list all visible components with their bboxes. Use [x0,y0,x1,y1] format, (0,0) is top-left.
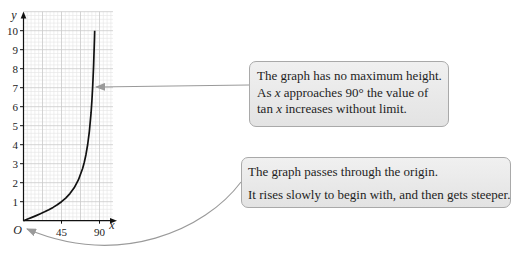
callout-line: tan x increases without limit. [257,101,448,118]
callout-text: increases without limit. [282,101,407,116]
x-axis-label: x [108,218,115,232]
callout-text: The graph passes through the origin. [248,164,438,179]
y-tick-label: 7 [13,82,19,94]
y-tick-label: 9 [13,44,19,56]
callout-text: As [257,85,275,100]
y-tick-label: 5 [13,120,19,132]
x-tick-label: 45 [56,226,68,238]
callout-text: The graph has no maximum height. [257,68,442,83]
origin-label: O [13,223,22,237]
callout-text: tan [257,101,276,116]
y-tick-label: 6 [13,101,19,113]
y-axis-arrow-icon [21,12,27,19]
callout-line: The graph passes through the origin. [248,161,510,184]
tan-graph: 123456789104590 y x O [0,0,518,254]
pointer-arrow-max-height [96,85,249,87]
callout-max-height: The graph has no maximum height. As x ap… [249,61,449,127]
y-tick-label: 4 [13,139,19,151]
x-tick-label: 90 [94,226,106,238]
callout-line: As x approaches 90° the value of [257,85,448,102]
callout-text: It rises slowly to begin with, and then … [248,187,510,202]
callout-origin: The graph passes through the origin. It … [241,157,511,208]
callout-line: It rises slowly to begin with, and then … [248,184,510,207]
y-tick-label: 1 [13,196,19,208]
y-tick-label: 2 [13,177,19,189]
callout-text: approaches 90° the value of [280,85,428,100]
grid [24,12,114,221]
y-axis-label: y [10,8,17,22]
y-tick-label: 3 [13,158,19,170]
callout-line: The graph has no maximum height. [257,68,448,85]
y-tick-label: 8 [13,63,19,75]
y-tick-label: 10 [7,25,19,37]
